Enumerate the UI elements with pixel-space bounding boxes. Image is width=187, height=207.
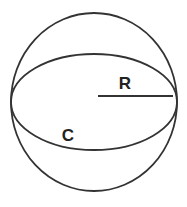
radius-label: R (119, 74, 131, 93)
sphere-diagram: R C (0, 0, 187, 207)
sphere-outline (11, 13, 177, 191)
circumference-label: C (62, 126, 74, 145)
equator-ellipse (11, 54, 177, 150)
